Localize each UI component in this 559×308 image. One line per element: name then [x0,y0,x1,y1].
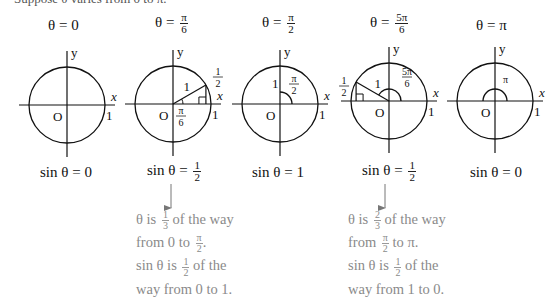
radius-label: 1 [183,79,190,94]
note-fraction: 23 [374,210,381,231]
unit-tick-label: 1 [319,107,326,122]
note-text: θ is [348,211,372,227]
panel-caption-2: sin θ = 1 [252,164,304,181]
angle-label-numerator: 5π [402,66,412,77]
angle-label-denominator: 6 [179,117,184,128]
angle-label-numerator: π [291,73,296,84]
angle-label: π [503,74,508,85]
note-line: θ is 13 of the way [136,208,234,231]
origin-label: O [481,105,490,120]
x-axis-label: x [323,88,330,103]
panel-caption-4: sin θ = 0 [470,164,522,181]
right-angle-marker [356,94,363,101]
origin-label: O [159,108,168,123]
y-axis-label: y [71,45,78,60]
caption-prefix: sin θ = [40,164,84,180]
caption-fraction: 12 [408,160,416,183]
height-label-denominator: 2 [215,78,220,89]
note-line: way from 1 to 0. [348,278,446,300]
fraction-denominator: 2 [197,244,202,254]
origin-label: O [375,105,384,120]
note-line: from π2 to π. [348,231,446,254]
unit-circles-diagram: xyO1xyO11π612xyO11π2xyO115π612xyO1π [0,0,559,308]
x-axis-label: x [216,88,223,103]
height-label-denominator: 2 [342,87,347,98]
note-text: of the way [381,211,446,227]
height-label-numerator: 1 [342,75,347,86]
note-line: from 0 to π2. [136,231,234,254]
caption-value: 1 [296,164,304,180]
note-text: of the [401,257,438,273]
note-text: of the way [169,211,234,227]
fraction-denominator: 2 [194,172,200,183]
y-axis-label: y [177,44,184,59]
fraction-denominator: 3 [163,221,168,231]
note-line: sin θ is 12 of the [136,254,234,277]
radius-line [356,82,389,101]
angle-arc [280,92,292,104]
radius-label: 1 [272,76,279,91]
panel-caption-1: sin θ = 12 [147,160,201,183]
x-axis-label: x [538,85,545,100]
panel-caption-3: sin θ = 12 [362,160,416,183]
annotation-note-2: θ is 23 of the way from π2 to π. sin θ i… [348,208,446,300]
y-axis-label: y [284,44,291,59]
unit-tick-label: 1 [428,104,435,119]
fraction-denominator: 2 [395,268,400,278]
caption-prefix: sin θ = [252,164,296,180]
origin-label: O [53,109,62,124]
angle-label-denominator: 2 [292,85,297,96]
caption-prefix: sin θ = [147,162,191,178]
angle-label-denominator: 6 [405,78,410,89]
note-line: θ is 23 of the way [348,208,446,231]
angle-arc [182,99,183,104]
note-text: to π. [389,234,418,250]
angle-label-numerator: π [178,105,183,116]
annotation-note-1: θ is 13 of the way from 0 to π2. sin θ i… [136,208,234,300]
note-text: sin θ is [348,257,392,273]
caption-value: 0 [514,164,522,180]
radius-label: 1 [375,76,382,91]
unit-tick-label: 1 [534,104,541,119]
x-axis-label: x [432,85,439,100]
note-text: θ is [136,211,160,227]
note-text: of the [189,257,226,273]
fraction-denominator: 2 [183,268,188,278]
caption-value: 0 [84,164,92,180]
fraction-denominator: 2 [409,172,415,183]
caption-fraction: 12 [193,160,201,183]
note-fraction: π2 [382,233,389,254]
x-axis-label: x [110,89,117,104]
note-line: sin θ is 12 of the [348,254,446,277]
note-line: way from 0 to 1. [136,278,234,300]
note-fraction: 13 [162,210,169,231]
caption-prefix: sin θ = [362,162,406,178]
panel-caption-0: sin θ = 0 [40,164,92,181]
note-text: from [348,234,380,250]
unit-tick-label: 1 [212,107,219,122]
unit-tick-label: 1 [106,108,113,123]
note-text: sin θ is [136,257,180,273]
caption-prefix: sin θ = [470,164,514,180]
fraction-denominator: 2 [383,244,388,254]
y-axis-label: y [393,41,400,56]
note-text: . [203,234,207,250]
note-fraction: π2 [196,233,203,254]
fraction-denominator: 3 [375,221,380,231]
angle-arc [379,89,401,101]
height-label-numerator: 1 [215,66,220,77]
note-text: from 0 to [136,234,194,250]
y-axis-label: y [499,41,506,56]
right-angle-marker [199,97,206,104]
origin-label: O [266,108,275,123]
